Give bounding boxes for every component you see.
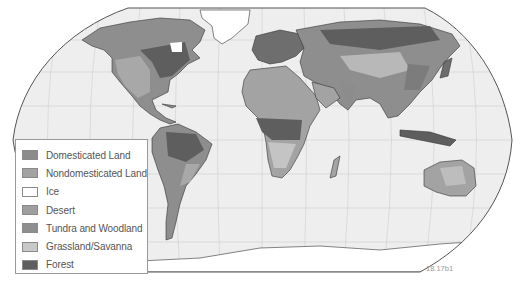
legend-label: Domesticated Land <box>46 150 130 161</box>
swatch-desert <box>22 205 38 215</box>
swatch-domesticated-land <box>22 150 38 160</box>
swatch-tundra-woodland <box>22 223 38 233</box>
swatch-ice <box>22 187 38 197</box>
swatch-grassland-savanna <box>22 242 38 252</box>
legend-label: Ice <box>46 186 59 197</box>
legend-item-tundra-woodland: Tundra and Woodland <box>22 219 147 237</box>
legend-item-nondomesticated-land: Nondomesticated Land <box>22 164 147 182</box>
legend-item-ice: Ice <box>22 183 147 201</box>
figure-id: 18.17b1 <box>426 264 453 273</box>
legend-label: Grassland/Savanna <box>46 241 132 252</box>
legend-label: Nondomesticated Land <box>46 168 147 179</box>
legend-label: Tundra and Woodland <box>46 223 143 234</box>
legend-label: Desert <box>46 205 75 216</box>
swatch-forest <box>22 260 38 270</box>
legend-item-desert: Desert <box>22 201 147 219</box>
map-legend: Domesticated Land Nondomesticated Land I… <box>15 139 148 274</box>
legend-item-domesticated-land: Domesticated Land <box>22 146 147 164</box>
legend-item-forest: Forest <box>22 256 147 274</box>
swatch-nondomesticated-land <box>22 168 38 178</box>
legend-item-grassland-savanna: Grassland/Savanna <box>22 237 147 255</box>
legend-label: Forest <box>46 259 74 270</box>
